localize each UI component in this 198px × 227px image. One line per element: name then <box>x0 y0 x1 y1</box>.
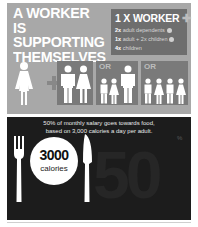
calories-value: 3000 <box>30 147 78 163</box>
group-two-adults <box>57 61 93 105</box>
child-figure-icon <box>154 78 164 104</box>
dot-icon <box>167 28 172 33</box>
man-figure-icon <box>121 65 135 103</box>
legend-title: 1 X WORKER ✚ <box>115 12 191 24</box>
or-label: OR <box>144 62 156 71</box>
headline-line: A WORKER IS <box>13 6 101 35</box>
percent-sign: % <box>177 135 182 141</box>
calories-label: calories <box>30 164 78 173</box>
calories-plate: 3000 calories <box>30 137 78 185</box>
food-panel: 50% of monthly salary goes towards food,… <box>7 117 191 220</box>
legend-text: adult + 2x children <box>123 36 168 42</box>
group-adult-two-children: OR <box>96 61 138 105</box>
legend-text: children <box>123 45 142 51</box>
group-four-children: OR <box>141 61 188 105</box>
legend-row: 1x adult + 2x children <box>115 36 174 42</box>
legend-row: 4x children <box>115 45 142 51</box>
legend-text: adult dependents <box>123 27 165 33</box>
or-label: OR <box>99 62 111 71</box>
knife-icon <box>81 134 93 202</box>
headline: A WORKER IS SUPPORTING THEMSELVES <box>13 6 101 64</box>
man-figure-icon <box>61 65 75 103</box>
legend-count: 4x <box>115 45 121 51</box>
plus-icon: ✚ <box>182 12 191 24</box>
legend-title-text: 1 X WORKER <box>115 12 180 24</box>
legend-row: 2x adult dependents <box>115 27 172 33</box>
woman-figure-icon <box>13 61 35 105</box>
legend-count: 1x <box>115 36 121 42</box>
divider <box>7 222 191 223</box>
child-figure-icon <box>99 78 109 104</box>
legend-box: 1 X WORKER ✚ 2x adult dependents 1x adul… <box>111 9 187 55</box>
child-figure-icon <box>165 78 175 104</box>
food-note: 50% of monthly salary goes towards food,… <box>7 120 191 135</box>
dependents-panel: A WORKER IS SUPPORTING THEMSELVES 1 X WO… <box>7 3 191 114</box>
food-note-line: based on 3,000 calories a day per adult. <box>7 128 191 136</box>
child-figure-icon <box>109 78 119 104</box>
food-note-line: 50% of monthly salary goes towards food, <box>7 120 191 128</box>
child-figure-icon <box>143 78 153 104</box>
dot-icon <box>169 37 174 42</box>
fork-icon <box>13 136 27 202</box>
percent-background-number: 50 <box>93 135 158 215</box>
legend-count: 2x <box>115 27 121 33</box>
child-figure-icon <box>176 78 186 104</box>
woman-figure-icon <box>76 65 91 103</box>
